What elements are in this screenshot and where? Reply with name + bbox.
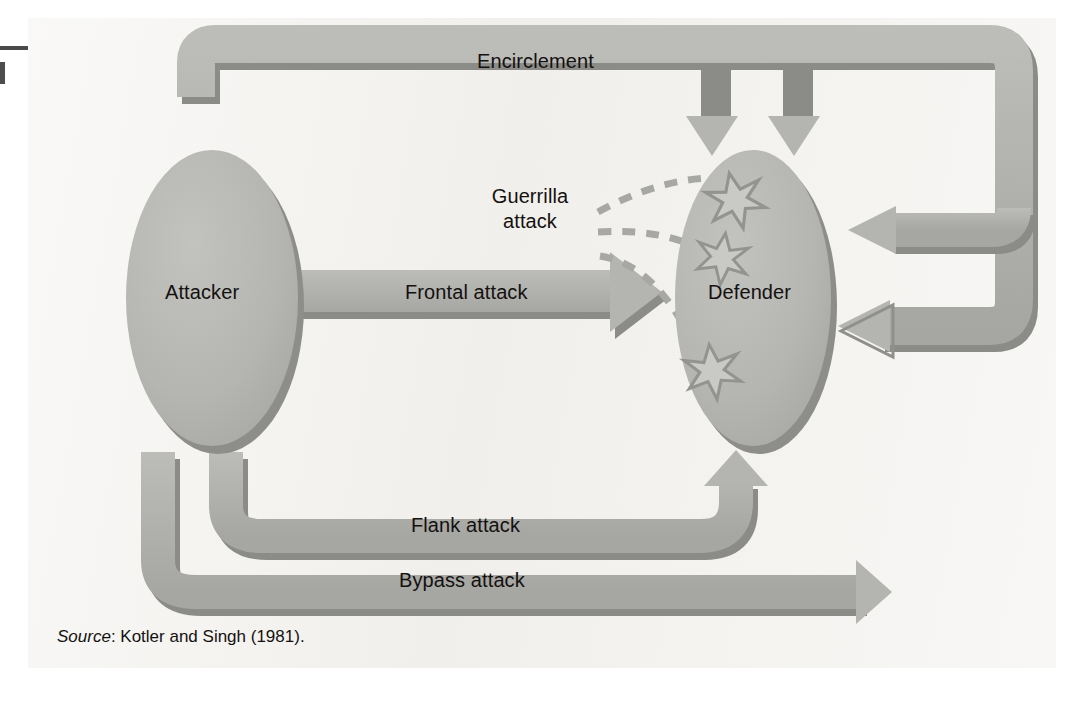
label-encirclement: Encirclement xyxy=(477,50,594,73)
label-frontal-attack: Frontal attack xyxy=(405,281,528,304)
label-guerrilla-line2: attack xyxy=(503,210,557,232)
source-separator: : xyxy=(111,627,120,646)
flank-arrowhead xyxy=(704,450,768,486)
label-guerrilla-attack: Guerrilla attack xyxy=(470,184,590,234)
source-prefix: Source xyxy=(57,627,111,646)
encirclement-arrowhead-upper xyxy=(848,206,896,254)
bypass-arrowhead xyxy=(856,560,892,624)
figure-stage: Encirclement Frontal attack Guerrilla at… xyxy=(0,0,1090,708)
encirclement-arrowhead-lower xyxy=(838,300,890,352)
label-bypass-attack: Bypass attack xyxy=(399,569,525,592)
source-caption: Source: Kotler and Singh (1981). xyxy=(57,627,305,647)
encirclement-arrowhead-down-right xyxy=(768,116,820,156)
label-defender: Defender xyxy=(708,281,791,304)
label-flank-attack: Flank attack xyxy=(411,514,520,537)
encirclement-arrowhead-down-left xyxy=(686,116,738,156)
label-attacker: Attacker xyxy=(165,281,239,304)
label-guerrilla-line1: Guerrilla xyxy=(492,185,568,207)
source-text: Kotler and Singh (1981). xyxy=(120,627,304,646)
attack-strategies-diagram xyxy=(0,0,1090,708)
